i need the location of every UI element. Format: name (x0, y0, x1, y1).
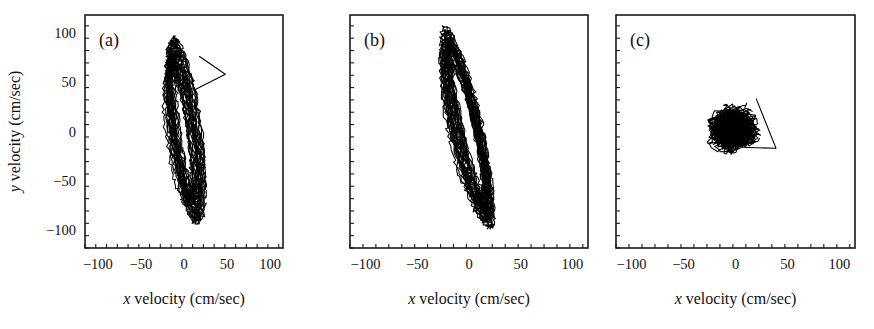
panel-a: −100−50050100100500−50−100y velocity (cm… (6, 15, 283, 308)
ytick-label-a: 50 (62, 74, 77, 90)
x-axis-title-symbol-c: x (674, 290, 682, 307)
xtick-label-a: 0 (180, 256, 187, 272)
ytick-label-a: −100 (46, 222, 76, 238)
ytick-label-a: 0 (69, 124, 76, 140)
xtick-label-a: 100 (259, 256, 281, 272)
panel-label-b: (b) (364, 30, 385, 51)
y-axis-title-rest: velocity (cm/sec) (6, 71, 24, 186)
xtick-label-a: 50 (220, 256, 235, 272)
ytick-label-a: −50 (53, 173, 76, 189)
xtick-label-b: −50 (406, 256, 429, 272)
xtick-label-c: −50 (672, 256, 695, 272)
xtick-label-b: 100 (562, 256, 584, 272)
xtick-label-a: −100 (83, 256, 113, 272)
x-axis-title-rest-a: velocity (cm/sec) (130, 290, 245, 308)
x-axis-title-rest-c: velocity (cm/sec) (682, 290, 797, 308)
xtick-label-b: 50 (513, 256, 528, 272)
x-axis-title-symbol-a: x (122, 290, 130, 307)
plot-frame-b (350, 15, 588, 248)
x-axis-title-rest-b: velocity (cm/sec) (415, 290, 530, 308)
xtick-label-b: −100 (351, 256, 381, 272)
figure-panel-group: −100−50050100100500−50−100y velocity (cm… (0, 0, 874, 329)
xtick-label-c: 0 (732, 256, 739, 272)
figure-canvas: −100−50050100100500−50−100y velocity (cm… (0, 0, 874, 329)
x-axis-title-b: x velocity (cm/sec) (407, 290, 530, 308)
xtick-label-c: −100 (617, 256, 647, 272)
panel-label-c: (c) (630, 30, 650, 51)
x-axis-title-symbol-b: x (407, 290, 415, 307)
x-axis-title-c: x velocity (cm/sec) (674, 290, 797, 308)
xtick-label-b: 0 (465, 256, 472, 272)
panel-b: −100−50050100x velocity (cm/sec)(b) (350, 15, 588, 308)
xtick-label-a: −50 (130, 256, 153, 272)
ytick-label-a: 100 (54, 25, 76, 41)
xtick-label-c: 100 (829, 256, 851, 272)
x-axis-title-a: x velocity (cm/sec) (122, 290, 245, 308)
y-axis-title: y velocity (cm/sec) (6, 71, 24, 195)
panel-label-a: (a) (99, 30, 119, 51)
panel-c: −100−50050100x velocity (cm/sec)(c) (616, 15, 855, 308)
xtick-label-c: 50 (780, 256, 795, 272)
